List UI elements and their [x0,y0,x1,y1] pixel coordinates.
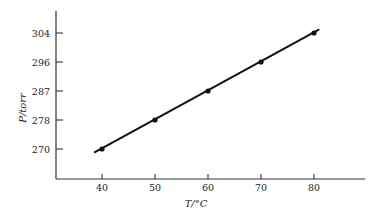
x-tick-label: 80 [308,182,320,193]
data-point [258,59,263,64]
data-point [205,88,210,93]
y-tick-label: 270 [32,144,50,155]
y-tick-label: 296 [32,57,50,68]
x-tick-label: 40 [96,182,108,193]
y-ticks: 270278287296304 [32,28,63,155]
axes [56,11,365,179]
x-tick-label: 50 [149,182,161,193]
y-tick-label: 278 [32,115,50,126]
x-tick-label: 60 [202,182,214,193]
y-tick-label: 287 [32,86,50,97]
plot-area [94,29,319,152]
data-point [311,30,316,35]
chart-canvas: 4050607080 270278287296304 T/°C P/torr [0,0,384,221]
x-ticks: 4050607080 [96,174,320,193]
y-tick-label: 304 [32,28,50,39]
data-point [152,117,157,122]
y-axis-label: P/torr [17,92,28,124]
x-tick-label: 70 [255,182,267,193]
data-point [99,146,104,151]
x-axis-label: T/°C [185,198,208,209]
